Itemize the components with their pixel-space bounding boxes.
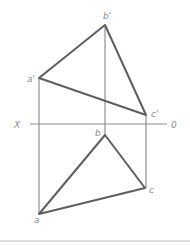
- label-c-prime: c': [151, 109, 158, 119]
- projection-diagram: b' a' c' X 0 b c a: [0, 0, 190, 246]
- axis-label-x: X: [13, 120, 21, 130]
- label-a: a: [34, 215, 40, 225]
- label-b-prime: b': [103, 11, 111, 21]
- top-view-triangle: [39, 135, 145, 214]
- label-c: c: [149, 185, 154, 195]
- axis-label-0: 0: [171, 120, 177, 130]
- label-a-prime: a': [27, 74, 35, 84]
- label-b: b: [95, 128, 101, 138]
- front-view-triangle: [39, 25, 146, 115]
